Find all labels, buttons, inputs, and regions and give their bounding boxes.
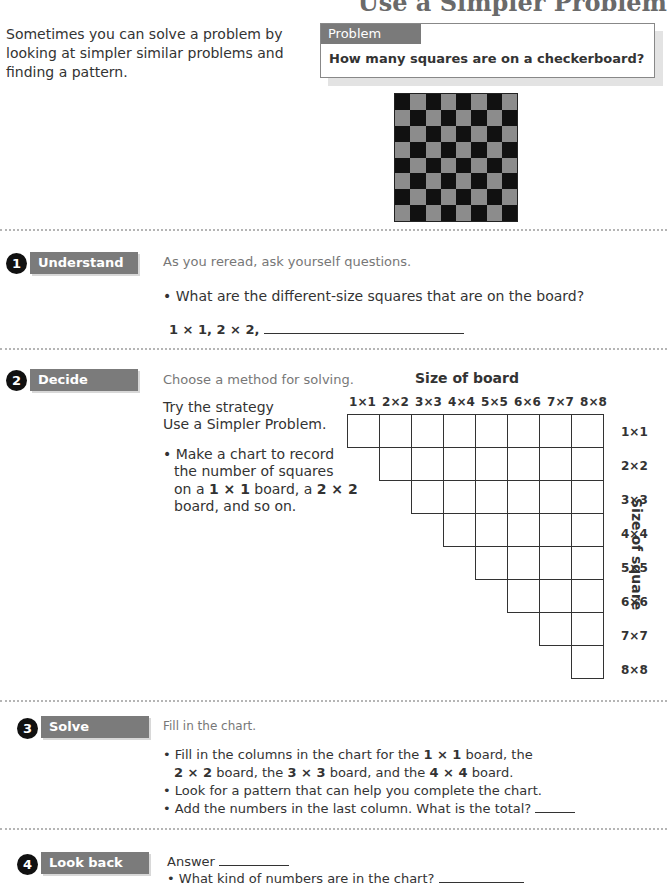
decide-bullet-4: board, and so on. — [174, 497, 296, 516]
chart-cell[interactable] — [539, 579, 572, 613]
chart-cell[interactable] — [507, 546, 540, 580]
page-title: Use a Simpler Problem — [358, 0, 667, 17]
problem-question: How many squares are on a checkerboard? — [329, 51, 644, 66]
chart-title: Size of board — [415, 370, 519, 386]
checkerboard-image — [394, 93, 518, 222]
chart-cell[interactable] — [571, 645, 604, 679]
checker-square — [487, 158, 502, 174]
chart-cell[interactable] — [507, 414, 540, 448]
chart-row-header: 8×8 — [621, 663, 648, 677]
checker-square — [456, 142, 471, 158]
step-number-badge: 2 — [6, 370, 27, 391]
checker-square — [471, 205, 486, 221]
intro-text: Sometimes you can solve a problem by loo… — [6, 25, 306, 82]
chart-cell[interactable] — [347, 414, 380, 448]
checker-square — [502, 94, 517, 110]
checker-square — [410, 173, 425, 189]
chart-cell[interactable] — [539, 612, 572, 646]
chart-column-header: 2×2 — [379, 395, 412, 409]
divider — [0, 700, 667, 702]
solve-bullet-3: • Add the numbers in the last column. Wh… — [163, 799, 575, 818]
chart-cell[interactable] — [507, 579, 540, 613]
chart-cell[interactable] — [475, 447, 508, 481]
checker-square — [426, 94, 441, 110]
chart-cell[interactable] — [443, 414, 476, 448]
chart-column-header: 3×3 — [412, 395, 445, 409]
checker-square — [426, 110, 441, 126]
checker-square — [395, 110, 410, 126]
checker-square — [456, 173, 471, 189]
chart-cell[interactable] — [475, 480, 508, 514]
chart-cell[interactable] — [539, 414, 572, 448]
solve-bullet-1-cont: 2 × 2 board, the 3 × 3 board, and the 4 … — [174, 763, 513, 782]
total-blank[interactable] — [535, 812, 575, 813]
checker-square — [487, 94, 502, 110]
strategy-line-2: Use a Simpler Problem. — [163, 415, 326, 434]
number-kind-blank[interactable] — [439, 882, 524, 883]
checker-square — [456, 189, 471, 205]
checker-square — [410, 189, 425, 205]
chart-cell[interactable] — [379, 447, 412, 481]
step-heading: As you reread, ask yourself questions. — [163, 254, 411, 269]
step-heading: Fill in the chart. — [163, 719, 256, 733]
chart-cell[interactable] — [443, 480, 476, 514]
chart-cell[interactable] — [571, 612, 604, 646]
answer-blank[interactable] — [219, 865, 289, 866]
chart-cell[interactable] — [571, 513, 604, 547]
chart-row-header: 2×2 — [621, 459, 648, 473]
chart-row-axis-label: Size of square — [629, 498, 645, 610]
chart-cell[interactable] — [443, 447, 476, 481]
chart-cell[interactable] — [571, 447, 604, 481]
chart-cell[interactable] — [539, 513, 572, 547]
chart-column-header: 8×8 — [577, 395, 610, 409]
step-label-look-back: Look back — [41, 852, 149, 874]
chart-cell[interactable] — [571, 546, 604, 580]
chart-column-header: 5×5 — [478, 395, 511, 409]
checker-square — [471, 158, 486, 174]
checker-square — [471, 126, 486, 142]
answer-blank[interactable] — [264, 333, 464, 334]
chart-cell[interactable] — [507, 480, 540, 514]
chart-cell[interactable] — [443, 513, 476, 547]
checker-square — [502, 110, 517, 126]
checker-square — [441, 158, 456, 174]
chart-cell[interactable] — [571, 414, 604, 448]
checker-square — [487, 205, 502, 221]
chart-cell[interactable] — [379, 414, 412, 448]
step-number-badge: 4 — [17, 854, 38, 875]
chart-cell[interactable] — [539, 447, 572, 481]
divider — [0, 348, 667, 350]
chart-cell[interactable] — [571, 480, 604, 514]
chart-cell[interactable] — [475, 513, 508, 547]
decide-bullet-2: the number of squares — [174, 462, 333, 481]
checker-square — [395, 94, 410, 110]
checker-square — [471, 142, 486, 158]
step-label-solve: Solve — [41, 716, 149, 738]
checker-square — [471, 189, 486, 205]
chart-cell[interactable] — [539, 546, 572, 580]
checker-square — [471, 110, 486, 126]
chart-cell[interactable] — [539, 480, 572, 514]
solve-bullet-2: • Look for a pattern that can help you c… — [163, 781, 542, 800]
chart-cell[interactable] — [411, 480, 444, 514]
checker-square — [426, 173, 441, 189]
chart-cell[interactable] — [507, 513, 540, 547]
chart-cell[interactable] — [411, 414, 444, 448]
look-back-bullet: • What kind of numbers are in the chart? — [167, 869, 524, 888]
chart-cell[interactable] — [571, 579, 604, 613]
checker-square — [410, 94, 425, 110]
chart-cell[interactable] — [411, 447, 444, 481]
checker-square — [395, 142, 410, 158]
step-label-decide: Decide — [30, 369, 138, 391]
checker-square — [426, 189, 441, 205]
checker-square — [456, 205, 471, 221]
chart-cell[interactable] — [507, 447, 540, 481]
divider — [0, 828, 667, 830]
chart-cell[interactable] — [475, 414, 508, 448]
checker-square — [410, 158, 425, 174]
checker-square — [487, 110, 502, 126]
checker-square — [395, 205, 410, 221]
chart-cell[interactable] — [475, 546, 508, 580]
checker-square — [395, 189, 410, 205]
checker-square — [487, 142, 502, 158]
